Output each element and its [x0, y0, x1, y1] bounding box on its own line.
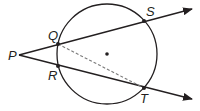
point-S: [142, 19, 146, 23]
label-R: R: [48, 68, 57, 83]
label-Q: Q: [48, 28, 58, 43]
ray-PT: [19, 55, 192, 99]
segment-QT: [58, 44, 144, 88]
diagram-svg: P Q R S T: [0, 0, 200, 111]
label-S: S: [146, 4, 155, 19]
ray-PS: [19, 9, 192, 55]
label-P: P: [8, 48, 17, 63]
center-point: [105, 52, 109, 56]
geometry-diagram: P Q R S T: [0, 0, 200, 111]
point-T: [142, 86, 146, 90]
label-T: T: [140, 91, 149, 106]
